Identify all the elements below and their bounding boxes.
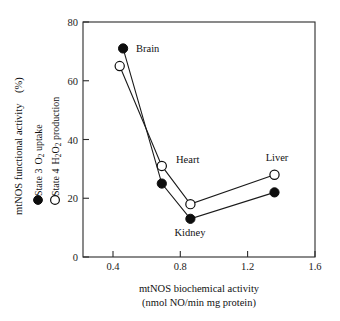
x-tick-label-1-6: 1.6 bbox=[308, 261, 321, 272]
annotation-kidney: Kidney bbox=[175, 227, 207, 238]
data-point-state3-brain[interactable] bbox=[119, 44, 128, 53]
legend-label-state3: State 3O2 uptake bbox=[33, 124, 46, 196]
series-state4-h2o2-production bbox=[115, 61, 279, 208]
legend-entry-state4[interactable]: State 4H2O2 production bbox=[50, 97, 63, 205]
y-tick-label-60: 60 bbox=[68, 76, 79, 87]
y-axis-title-main: mtNOS functional activity bbox=[13, 103, 24, 215]
series-state4-line bbox=[120, 66, 275, 204]
x-axis-title-line2: (nmol NO/min mg protein) bbox=[142, 297, 257, 309]
legend-entry-state3[interactable]: State 3O2 uptake bbox=[33, 124, 46, 205]
y-axis-title: mtNOS functional activity (%) bbox=[13, 77, 25, 215]
data-point-state4-liver[interactable] bbox=[270, 170, 279, 179]
data-point-state4-kidney[interactable] bbox=[186, 200, 195, 209]
y-tick-label-40: 40 bbox=[68, 135, 79, 146]
y-tick-label-20: 20 bbox=[68, 193, 79, 204]
plot-frame bbox=[83, 22, 315, 257]
series-state3-o2-uptake bbox=[119, 44, 280, 224]
x-axis-title: mtNOS biochemical activity (nmol NO/min … bbox=[139, 283, 260, 309]
annotation-heart: Heart bbox=[176, 154, 199, 165]
series-state3-line bbox=[123, 48, 274, 218]
data-point-state4-brain[interactable] bbox=[115, 61, 124, 70]
point-annotations: Brain Heart Kidney Liver bbox=[136, 43, 289, 238]
data-point-state3-kidney[interactable] bbox=[186, 214, 195, 223]
y-axis-title-unit: (%) bbox=[13, 77, 25, 93]
data-point-state3-liver[interactable] bbox=[270, 188, 279, 197]
annotation-brain: Brain bbox=[136, 43, 160, 54]
data-point-state4-heart[interactable] bbox=[157, 161, 166, 170]
x-tick-label-0-8: 0.8 bbox=[174, 261, 187, 272]
x-tick-label-1-2: 1.2 bbox=[241, 261, 254, 272]
y-tick-label-0: 0 bbox=[73, 252, 78, 263]
legend: State 3O2 uptake State 4H2O2 production bbox=[33, 97, 63, 205]
chart-figure: mtNOS functional activity (%) State 3O2 … bbox=[0, 0, 340, 321]
y-axis-ticks: 80 60 40 20 0 bbox=[68, 17, 90, 263]
line-chart: mtNOS functional activity (%) State 3O2 … bbox=[0, 0, 340, 321]
y-tick-label-80: 80 bbox=[68, 17, 79, 28]
x-tick-label-0-4: 0.4 bbox=[106, 261, 120, 272]
data-point-state3-heart[interactable] bbox=[157, 179, 166, 188]
x-axis-ticks: 0.4 0.8 1.2 1.6 bbox=[106, 251, 321, 272]
x-axis-title-line1: mtNOS biochemical activity bbox=[139, 283, 260, 294]
annotation-liver: Liver bbox=[266, 152, 289, 163]
legend-label-state4: State 4H2O2 production bbox=[50, 97, 63, 196]
